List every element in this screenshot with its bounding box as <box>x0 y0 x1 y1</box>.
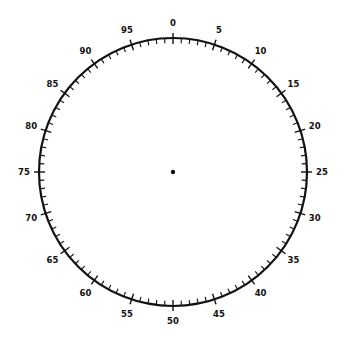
dial-label: 85 <box>47 79 59 89</box>
dial-label: 10 <box>255 46 267 56</box>
minor-tick <box>261 74 264 78</box>
minor-tick <box>60 241 64 244</box>
minor-tick <box>40 188 45 189</box>
dial-label: 60 <box>79 288 91 298</box>
minor-tick <box>70 87 74 90</box>
dial-label: 90 <box>79 46 91 56</box>
minor-tick <box>40 155 45 156</box>
dial-label: 5 <box>216 25 222 35</box>
minor-tick <box>286 107 290 109</box>
minor-tick <box>101 281 104 285</box>
dial-label: 0 <box>170 18 176 28</box>
minor-tick <box>272 254 276 257</box>
minor-tick <box>282 241 286 244</box>
minor-tick <box>282 100 286 103</box>
dial-label: 35 <box>288 255 300 265</box>
minor-tick <box>108 285 110 289</box>
minor-tick <box>108 55 110 59</box>
minor-tick <box>56 107 60 109</box>
dial-label: 50 <box>167 316 179 326</box>
dial-label: 40 <box>255 288 267 298</box>
minor-tick <box>235 55 237 59</box>
minor-tick <box>286 234 290 236</box>
dial-label: 75 <box>18 167 30 177</box>
dial-label: 55 <box>121 309 133 319</box>
minor-tick <box>242 59 245 63</box>
minor-tick <box>301 155 306 156</box>
minor-tick <box>60 100 64 103</box>
minor-tick <box>272 87 276 90</box>
dial-label: 65 <box>47 255 59 265</box>
dial-label: 95 <box>121 25 133 35</box>
dial-label: 20 <box>309 121 321 131</box>
dial-label: 45 <box>213 309 225 319</box>
center-dot <box>171 170 175 174</box>
minor-tick <box>189 300 190 305</box>
dial-label: 25 <box>316 167 328 177</box>
minor-tick <box>101 59 104 63</box>
dial-label: 30 <box>309 213 321 223</box>
minor-tick <box>189 39 190 44</box>
minor-tick <box>70 254 74 257</box>
dial-label: 15 <box>288 79 300 89</box>
minor-tick <box>267 260 271 263</box>
minor-tick <box>255 69 258 73</box>
minor-tick <box>88 271 91 275</box>
dial-label: 70 <box>25 213 37 223</box>
minor-tick <box>88 69 91 73</box>
minor-tick <box>81 74 84 78</box>
minor-tick <box>267 80 271 83</box>
minor-tick <box>255 271 258 275</box>
minor-tick <box>56 234 60 236</box>
dial-label: 80 <box>25 121 37 131</box>
minor-tick <box>156 300 157 305</box>
minor-tick <box>261 266 264 270</box>
minor-tick <box>301 188 306 189</box>
minor-tick <box>242 281 245 285</box>
minor-tick <box>156 39 157 44</box>
minor-tick <box>75 260 79 263</box>
circular-dial: 05101520253035404550556065707580859095 <box>0 0 346 349</box>
minor-tick <box>75 80 79 83</box>
minor-tick <box>235 285 237 289</box>
minor-tick <box>81 266 84 270</box>
